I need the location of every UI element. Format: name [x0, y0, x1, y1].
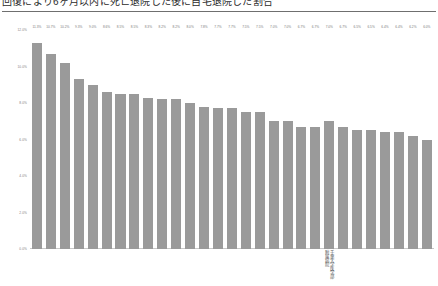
- bar-rect[interactable]: 11.3%: [32, 43, 42, 249]
- bar-rect[interactable]: 7.7%: [227, 108, 237, 249]
- bar-item[interactable]: 6.2%: [406, 30, 420, 249]
- bar-rect[interactable]: 7.7%: [213, 108, 223, 249]
- bar-value-label: 8.2%: [159, 25, 166, 29]
- bar-item[interactable]: 7.5%: [253, 30, 267, 249]
- page-title-strip: 回復により6ヶ月以内に死亡退院した後に自宅退院した割合: [0, 0, 438, 9]
- bar-value-label: 10.2%: [60, 25, 69, 29]
- y-axis-tick-label: 4.0%: [19, 174, 27, 178]
- bar-value-label: 6.5%: [367, 25, 374, 29]
- bar-rect[interactable]: 7.5%: [241, 112, 251, 249]
- bar-value-label: 10.7%: [46, 25, 55, 29]
- bar-item[interactable]: 10.2%: [58, 30, 72, 249]
- bar-rect[interactable]: 6.4%: [394, 132, 404, 249]
- bar-item[interactable]: 8.6%: [100, 30, 114, 249]
- bar-value-label: 6.0%: [423, 25, 430, 29]
- bar-value-label: 6.2%: [409, 25, 416, 29]
- bar-value-label: 6.7%: [298, 25, 305, 29]
- page-title: 回復により6ヶ月以内に死亡退院した後に自宅退院した割合: [2, 0, 273, 7]
- bar-rect[interactable]: 6.7%: [310, 127, 320, 249]
- bar-item[interactable]: 6.4%: [392, 30, 406, 249]
- bar-value-label: 9.3%: [75, 25, 82, 29]
- bar-item[interactable]: 6.7%: [336, 30, 350, 249]
- bar-item[interactable]: 9.0%: [86, 30, 100, 249]
- bar-item[interactable]: 8.3%: [141, 30, 155, 249]
- bar-item[interactable]: 6.5%: [350, 30, 364, 249]
- y-axis-tick-label: 8.0%: [19, 101, 27, 105]
- bar-value-label: 8.5%: [131, 25, 138, 29]
- bar-value-label: 7.8%: [200, 25, 207, 29]
- bar-rect[interactable]: 6.2%: [408, 136, 418, 249]
- bar-rect[interactable]: 8.2%: [157, 99, 167, 249]
- bar-value-label: 7.5%: [256, 25, 263, 29]
- bar-item[interactable]: 9.3%: [72, 30, 86, 249]
- bar-item[interactable]: 8.2%: [155, 30, 169, 249]
- bar-item[interactable]: 8.2%: [169, 30, 183, 249]
- bar-item[interactable]: 6.5%: [364, 30, 378, 249]
- bar-rect[interactable]: 6.7%: [296, 127, 306, 249]
- bar-value-label: 8.0%: [186, 25, 193, 29]
- bar-value-label: 6.4%: [381, 25, 388, 29]
- bar-item[interactable]: 6.7%: [308, 30, 322, 249]
- bar-rect[interactable]: 7.8%: [199, 107, 209, 249]
- bar-item[interactable]: 6.4%: [378, 30, 392, 249]
- bar-value-label: 9.0%: [89, 25, 96, 29]
- bar-rect[interactable]: 8.0%: [185, 103, 195, 249]
- bar-value-label: 6.5%: [354, 25, 361, 29]
- bar-item[interactable]: 7.8%: [197, 30, 211, 249]
- bar-value-label: 6.4%: [395, 25, 402, 29]
- bar-rect[interactable]: 6.0%: [422, 140, 432, 250]
- y-axis-tick-label: 12.0%: [17, 28, 27, 32]
- y-axis-tick-label: 6.0%: [19, 138, 27, 142]
- bar-rect[interactable]: 7.0%: [269, 121, 279, 249]
- chart-page: 回復により6ヶ月以内に死亡退院した後に自宅退院した割合 0.0%2.0%4.0%…: [0, 0, 438, 286]
- bar-item[interactable]: 6.7%: [295, 30, 309, 249]
- bar-item[interactable]: 7.0%千葉大学医学部附属病院: [322, 30, 336, 249]
- bar-item[interactable]: 8.5%: [127, 30, 141, 249]
- bar-value-label: 7.0%: [326, 25, 333, 29]
- bar-item[interactable]: 8.5%: [114, 30, 128, 249]
- bar-item[interactable]: 11.3%: [30, 30, 44, 249]
- bar-rect[interactable]: 6.7%: [338, 127, 348, 249]
- bar-rect[interactable]: 10.7%: [46, 54, 56, 249]
- y-axis-tick-label: 2.0%: [19, 211, 27, 215]
- bar-value-label: 7.5%: [242, 25, 249, 29]
- bar-value-label: 8.5%: [117, 25, 124, 29]
- bar-rect[interactable]: 7.0%: [324, 121, 334, 249]
- bar-value-label: 8.2%: [173, 25, 180, 29]
- bar-series: 11.3%10.7%10.2%9.3%9.0%8.6%8.5%8.5%8.3%8…: [30, 30, 434, 249]
- bar-value-label: 7.7%: [228, 25, 235, 29]
- bar-value-label: 7.0%: [284, 25, 291, 29]
- bar-rect[interactable]: 8.6%: [102, 92, 112, 249]
- title-divider: [2, 11, 436, 12]
- bar-value-label: 8.3%: [145, 25, 152, 29]
- bar-category-label-line: 千葉大学医学部: [329, 250, 334, 278]
- bar-rect[interactable]: 6.4%: [380, 132, 390, 249]
- bar-item[interactable]: 7.0%: [267, 30, 281, 249]
- bar-category-label-highlight: 千葉大学医学部附属病院: [324, 250, 334, 278]
- bar-rect[interactable]: 8.3%: [143, 98, 153, 249]
- bar-rect[interactable]: 9.0%: [88, 85, 98, 249]
- bar-item[interactable]: 7.0%: [281, 30, 295, 249]
- bar-value-label: 7.0%: [270, 25, 277, 29]
- bar-item[interactable]: 7.7%: [225, 30, 239, 249]
- bar-rect[interactable]: 10.2%: [60, 63, 70, 249]
- bar-rect[interactable]: 7.0%: [283, 121, 293, 249]
- bar-rect[interactable]: 6.5%: [366, 130, 376, 249]
- bar-rect[interactable]: 8.5%: [129, 94, 139, 249]
- bar-item[interactable]: 7.7%: [211, 30, 225, 249]
- bar-rect[interactable]: 8.5%: [115, 94, 125, 249]
- bar-item[interactable]: 10.7%: [44, 30, 58, 249]
- bar-item[interactable]: 7.5%: [239, 30, 253, 249]
- y-axis-tick-label: 0.0%: [19, 247, 27, 251]
- bar-rect[interactable]: 6.5%: [352, 130, 362, 249]
- bar-item[interactable]: 6.0%: [420, 30, 434, 249]
- bar-rect[interactable]: 8.2%: [171, 99, 181, 249]
- bar-rect[interactable]: 7.5%: [255, 112, 265, 249]
- bar-item[interactable]: 8.0%: [183, 30, 197, 249]
- bar-rect[interactable]: 9.3%: [74, 79, 84, 249]
- bar-value-label: 6.7%: [340, 25, 347, 29]
- bar-value-label: 7.7%: [214, 25, 221, 29]
- bar-value-label: 11.3%: [33, 25, 42, 29]
- y-axis-tick-label: 10.0%: [17, 65, 27, 69]
- bar-value-label: 6.7%: [312, 25, 319, 29]
